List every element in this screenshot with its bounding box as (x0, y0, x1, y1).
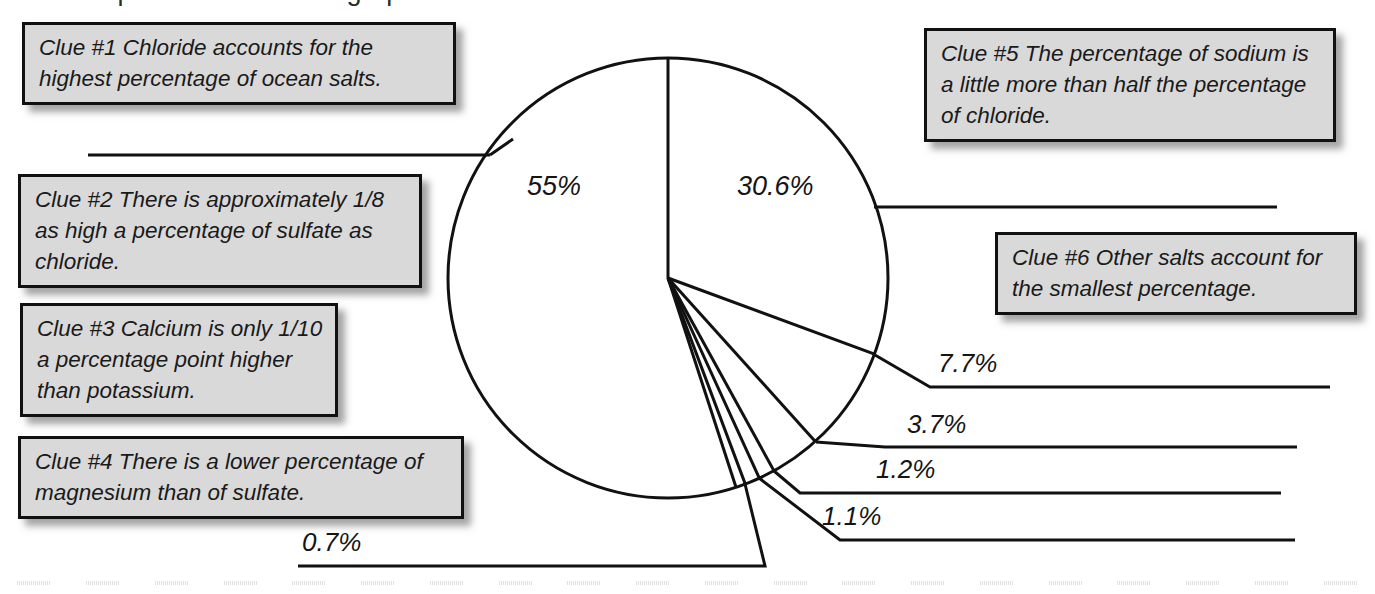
slice-label-1-1: 1.1% (822, 501, 881, 531)
slice-label-0-7: 0.7% (302, 527, 361, 557)
pie-divider-1-2 (668, 278, 759, 478)
page-heading-text: ...ect place on the circle graph. (50, 0, 670, 8)
scan-speckle (636, 581, 670, 585)
slice-label-30-6: 30.6% (737, 171, 814, 201)
slice-label-7-7: 7.7% (938, 348, 997, 378)
scan-speckle (292, 581, 326, 585)
scan-speckle (1186, 581, 1220, 585)
clue-box-1: Clue #1 Chloride accounts for the highes… (22, 22, 456, 105)
pie-divider-0-7 (668, 278, 736, 487)
scan-speckle (774, 581, 808, 585)
clue-box-4: Clue #4 There is a lower percentage of m… (18, 436, 464, 519)
scan-speckle (567, 581, 601, 585)
pie-divider-3-7 (668, 278, 774, 471)
scan-speckle (155, 581, 189, 585)
scan-speckle (705, 581, 739, 585)
page-heading: ...ect place on the circle graph. (50, 0, 670, 8)
scan-speckle (1117, 581, 1151, 585)
scan-artifact-strip (0, 578, 1375, 588)
scan-speckle (1255, 581, 1289, 585)
clue-box-2: Clue #2 There is approximately 1/8 as hi… (18, 174, 422, 288)
scan-speckle (1324, 581, 1358, 585)
clue-box-3: Clue #3 Calcium is only 1/10 a percentag… (20, 303, 338, 417)
scan-speckle (499, 581, 533, 585)
scan-speckle (17, 581, 51, 585)
slice-label-55: 55% (527, 171, 581, 201)
leader-line-1-2 (774, 471, 1281, 493)
slice-label-1-2: 1.2% (876, 454, 935, 484)
pie-divider-1-1 (668, 278, 745, 484)
slice-label-3-7: 3.7% (907, 409, 966, 439)
pie-divider-7-7 (668, 278, 815, 441)
leader-tick-55 (490, 139, 513, 155)
worksheet-page: ...ect place on the circle graph. (0, 0, 1375, 594)
clue-box-5: Clue #5 The percentage of sodium is a li… (924, 28, 1336, 142)
scan-speckle (361, 581, 395, 585)
pie-circle (448, 58, 888, 498)
scan-speckle (1049, 581, 1083, 585)
scan-speckle (86, 581, 120, 585)
leader-line-3-7 (816, 442, 1297, 447)
clue-box-6: Clue #6 Other salts account for the smal… (995, 232, 1357, 315)
scan-speckle (842, 581, 876, 585)
scan-speckle (911, 581, 945, 585)
pie-divider-30-6 (668, 278, 875, 354)
scan-speckle (224, 581, 258, 585)
scan-speckle (430, 581, 464, 585)
scan-speckle (980, 581, 1014, 585)
